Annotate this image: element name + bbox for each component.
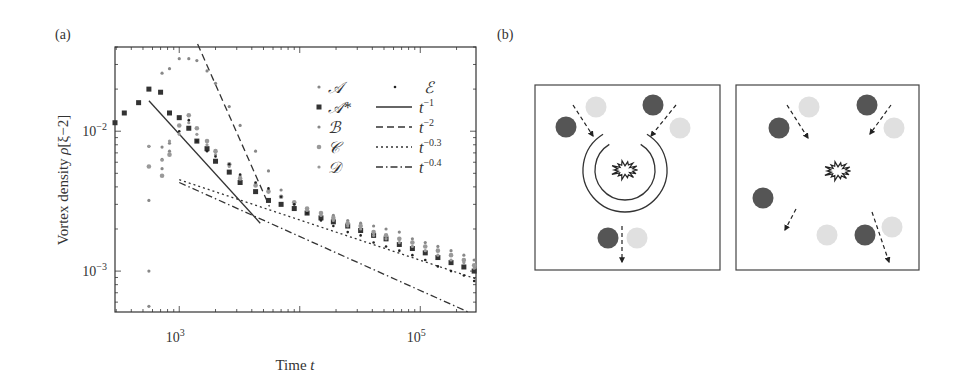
dark-vortex xyxy=(643,95,664,116)
left-box xyxy=(535,85,720,270)
dark-vortex xyxy=(753,188,774,209)
legend-label-t^-0.3: t−0.3 xyxy=(419,137,442,156)
dark-vortex xyxy=(769,118,790,139)
light-vortex xyxy=(884,118,905,139)
vortex-annihilation-diagram xyxy=(535,85,919,270)
panel-a-label: (a) xyxy=(55,27,71,43)
legend-label-B: ℬ xyxy=(328,119,342,136)
light-vortex xyxy=(817,225,838,246)
tick-label: 10−3 xyxy=(82,261,107,279)
right-box xyxy=(736,85,919,270)
legend-label-A*: 𝒜* xyxy=(328,99,351,116)
plot-frame xyxy=(115,47,476,312)
light-vortex xyxy=(627,228,648,249)
axis-ticks xyxy=(115,47,476,312)
panel-b-label: (b) xyxy=(497,27,514,43)
tick-label: 105 xyxy=(407,327,426,345)
y-axis-label: Vortex density ρ[ξ−2] xyxy=(55,115,71,245)
legend-label-D: 𝒟 xyxy=(328,159,344,176)
legend-label-t^-2: t−2 xyxy=(419,117,434,136)
legend: 𝒜𝒜*ℬ𝒞𝒟ℰt−1t−2t−0.3t−0.4 xyxy=(317,79,442,176)
light-vortex xyxy=(670,118,691,139)
x-axis-label: Time t xyxy=(275,357,315,373)
dark-vortex xyxy=(598,228,619,249)
reference-line-t^-1 xyxy=(149,101,260,223)
legend-label-t^-0.4: t−0.4 xyxy=(419,157,442,176)
figure: (a) (b) 10310510−210−3 Time t Vortex den… xyxy=(0,0,957,385)
dark-vortex xyxy=(855,225,876,246)
x-axis-label-text: Time xyxy=(275,357,310,373)
reference-line-t^-2 xyxy=(198,44,270,206)
reference-line-t^-0.3 xyxy=(179,180,476,279)
light-vortex xyxy=(799,97,820,118)
tick-label: 103 xyxy=(166,327,185,345)
legend-label-A: 𝒜 xyxy=(328,79,348,96)
vortex-density-plot: 10310510−210−3 Time t Vortex density ρ[ξ… xyxy=(55,44,477,373)
legend-label-E: ℰ xyxy=(424,79,436,96)
tick-label: 10−2 xyxy=(82,121,107,139)
light-vortex xyxy=(586,97,607,118)
data-points xyxy=(113,57,477,308)
legend-label-C: 𝒞 xyxy=(328,139,344,156)
dark-vortex xyxy=(556,117,577,138)
dark-vortex xyxy=(857,95,878,116)
light-vortex xyxy=(882,217,903,238)
legend-label-t^-1: t−1 xyxy=(419,97,434,116)
